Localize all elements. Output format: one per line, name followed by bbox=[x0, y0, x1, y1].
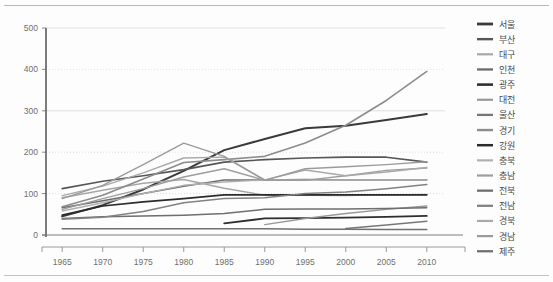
line-chart-canvas: 0100200300400500 19651970197519801985199… bbox=[0, 0, 553, 282]
legend-label-9[interactable]: 충북 bbox=[499, 156, 515, 166]
y-tick-label-5: 500 bbox=[24, 23, 38, 33]
x-tick-label-5: 1990 bbox=[255, 257, 274, 267]
legend-label-3[interactable]: 인천 bbox=[499, 65, 515, 75]
x-tick-label-7: 2000 bbox=[336, 257, 355, 267]
legend-label-13[interactable]: 경북 bbox=[499, 215, 515, 226]
legend-label-11[interactable]: 전북 bbox=[499, 186, 515, 196]
legend-label-15[interactable]: 제주 bbox=[499, 247, 515, 257]
y-tick-label-2: 200 bbox=[24, 147, 38, 157]
x-tick-label-8: 2005 bbox=[377, 257, 396, 267]
legend-label-12[interactable]: 전남 bbox=[499, 201, 515, 211]
y-tick-label-4: 400 bbox=[24, 64, 38, 74]
legend-label-8[interactable]: 강원 bbox=[499, 141, 515, 151]
legend-label-0[interactable]: 서울 bbox=[499, 20, 515, 30]
y-tick-label-3: 300 bbox=[24, 106, 38, 116]
y-axis-ticks: 0100200300400500 bbox=[24, 23, 46, 240]
x-axis-ticks: 1965197019751980198519901995200020052010 bbox=[53, 247, 437, 267]
series-line-7 bbox=[62, 71, 427, 206]
legend-label-14[interactable]: 경남 bbox=[499, 231, 515, 242]
series-line-6 bbox=[346, 221, 427, 228]
y-tick-label-0: 0 bbox=[33, 230, 38, 240]
x-tick-label-3: 1980 bbox=[174, 257, 193, 267]
legend-label-2[interactable]: 대구 bbox=[499, 50, 515, 60]
chart-figure: 0100200300400500 19651970197519801985199… bbox=[0, 0, 553, 282]
x-tick-label-2: 1975 bbox=[134, 257, 153, 267]
legend: 서울부산대구인천광주대전울산경기강원충북충남전북전남경북경남제주 bbox=[477, 20, 515, 257]
legend-label-7[interactable]: 경기 bbox=[499, 125, 515, 136]
data-series-group bbox=[62, 71, 427, 229]
x-tick-label-1: 1970 bbox=[93, 257, 112, 267]
legend-label-1[interactable]: 부산 bbox=[499, 35, 515, 45]
x-tick-label-0: 1965 bbox=[53, 257, 72, 267]
x-tick-label-6: 1995 bbox=[296, 257, 315, 267]
y-tick-label-1: 100 bbox=[24, 189, 38, 199]
legend-label-6[interactable]: 울산 bbox=[499, 110, 515, 120]
legend-label-10[interactable]: 충남 bbox=[499, 171, 515, 181]
legend-label-4[interactable]: 광주 bbox=[499, 79, 515, 90]
series-line-15 bbox=[62, 229, 427, 230]
x-tick-label-4: 1985 bbox=[215, 257, 234, 267]
x-tick-label-9: 2010 bbox=[417, 257, 436, 267]
series-line-10 bbox=[62, 168, 427, 209]
series-line-4 bbox=[224, 216, 427, 223]
legend-label-5[interactable]: 대전 bbox=[499, 95, 515, 105]
axes bbox=[42, 28, 465, 252]
